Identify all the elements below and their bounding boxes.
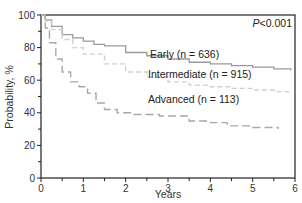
- p-symbol: P: [253, 17, 260, 29]
- p-value-annotation: P<0.001: [253, 17, 293, 29]
- x-tick-label: 6: [292, 183, 298, 194]
- x-tick-label: 0: [38, 183, 44, 194]
- y-axis-label: Probability, %: [3, 65, 15, 128]
- y-tick-label: 80: [24, 42, 36, 53]
- y-tick-label: 0: [29, 173, 35, 184]
- y-tick-label: 60: [24, 75, 36, 86]
- curve-label-advanced: Advanced (n = 113): [148, 93, 239, 105]
- x-tick-label: 4: [208, 183, 214, 194]
- curve-label-early: Early (n = 636): [150, 48, 219, 60]
- y-tick-label: 40: [24, 107, 36, 118]
- y-tick-label: 100: [18, 10, 35, 21]
- survival-chart: 0204060801000123456 Early (n = 636)Inter…: [0, 0, 302, 203]
- y-tick-label: 20: [24, 140, 36, 151]
- curve-labels: Early (n = 636)Intermediate (n = 915)Adv…: [148, 48, 252, 105]
- x-tick-label: 2: [123, 183, 129, 194]
- x-tick-label: 5: [250, 183, 256, 194]
- p-value: <0.001: [260, 17, 293, 29]
- x-axis-label: Years: [155, 188, 181, 200]
- curve-label-intermediate: Intermediate (n = 915): [148, 68, 252, 80]
- x-tick-label: 1: [81, 183, 87, 194]
